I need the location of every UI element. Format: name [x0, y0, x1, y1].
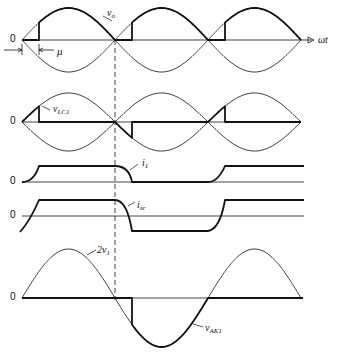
vo-label-sub: o	[111, 12, 115, 20]
vo-waveform	[208, 8, 301, 40]
vak1-label: vAK1	[205, 323, 222, 335]
commutation-waveform-figure: 0 vo ωt μ 0 vLC1 0 i1 0 isc 0 2v1 vAK1	[0, 0, 339, 354]
waveform-plot	[0, 0, 339, 354]
negative-envelope	[22, 40, 301, 72]
2v1-label-sub: 1	[106, 249, 110, 257]
vo-label: vo	[107, 8, 115, 20]
omega-t-axis-label: ωt	[318, 35, 328, 45]
vak1-label-sub: AK1	[209, 327, 221, 335]
isc-label: isc	[137, 200, 146, 212]
vo-waveform	[115, 8, 208, 40]
vlc1-label: vLC1	[53, 104, 70, 116]
panel4-zero-label: 0	[10, 210, 16, 220]
vo-waveform	[22, 8, 115, 40]
i1-waveform	[22, 166, 304, 182]
positive-envelope	[22, 8, 301, 40]
vak1-waveform	[22, 298, 303, 347]
i1-label: i1	[142, 158, 148, 170]
vak1-leader	[193, 324, 203, 327]
panel3-zero-label: 0	[10, 176, 16, 186]
vlc1-leader	[42, 106, 50, 110]
panel1-zero-label: 0	[10, 34, 16, 44]
panel5-zero-label: 0	[10, 292, 16, 302]
panel2-neg-envelope	[22, 122, 301, 151]
panel2-zero-label: 0	[10, 116, 16, 126]
i1-label-sub: 1	[145, 162, 149, 170]
2v1-leader	[87, 250, 96, 255]
2v1-label: 2v1	[97, 245, 110, 257]
i1-leader	[130, 164, 138, 170]
isc-label-sub: sc	[140, 204, 146, 212]
isc-leader	[128, 202, 135, 206]
mu-label: μ	[57, 46, 63, 57]
vlc1-label-sub: LC1	[57, 108, 69, 116]
